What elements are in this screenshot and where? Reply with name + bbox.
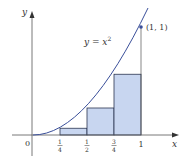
rectangle-1 <box>60 128 87 135</box>
tick-1-4-den: 4 <box>58 146 62 153</box>
tick-3-4-num: 3 <box>112 138 116 145</box>
rectangle-3 <box>114 74 141 135</box>
x-axis-arrow-icon <box>172 133 179 138</box>
tick-1-2-den: 2 <box>85 146 89 153</box>
x-axis-label: x <box>172 139 177 149</box>
tick-3-4-den: 4 <box>112 146 116 153</box>
rectangle-2 <box>87 108 114 135</box>
curve-exponent: 2 <box>107 35 111 42</box>
tick-1-2-num: 1 <box>85 138 89 145</box>
point-1-1 <box>139 25 143 29</box>
point-label: (1, 1) <box>146 23 168 32</box>
x-tick-labels: 1 4 1 2 3 4 1 <box>58 138 144 153</box>
y-axis-arrow-icon <box>30 11 35 18</box>
riemann-rectangles <box>60 74 141 135</box>
origin-label: 0 <box>25 139 30 148</box>
y-axis-label: y <box>21 7 28 17</box>
riemann-sum-diagram: y x 0 (1, 1) y = x2 1 4 1 2 3 4 1 <box>0 0 191 165</box>
curve-label: y = x2 <box>83 35 111 47</box>
tick-1: 1 <box>138 140 143 149</box>
tick-1-4-num: 1 <box>58 138 62 145</box>
